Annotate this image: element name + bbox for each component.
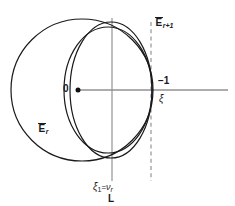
label-abscissa-nu: ν xyxy=(106,182,111,192)
figure-canvas: Er+1 −1 ξ 0 Er ξ1=νr L xyxy=(0,0,235,206)
label-ellipse-inner: Er+1 xyxy=(155,17,173,28)
label-ellipse-outer-subscript: r xyxy=(46,128,49,135)
label-abscissa-nu-subscript: r xyxy=(111,186,113,193)
label-ellipse-inner-subscript: r+1 xyxy=(163,22,174,29)
label-minus-one: −1 xyxy=(158,76,169,86)
label-origin: 0 xyxy=(63,84,69,94)
label-abscissa-xi-subscript: 1 xyxy=(97,186,101,193)
label-line-L: L xyxy=(108,194,114,204)
label-abscissa-equation: ξ1=νr xyxy=(93,182,113,192)
label-axis-variable-xi: ξ xyxy=(159,94,163,104)
origin-dot xyxy=(76,88,81,93)
label-ellipse-inner-letter: E xyxy=(155,17,163,28)
figure-drawing xyxy=(0,0,235,206)
label-ellipse-outer: Er xyxy=(38,123,48,134)
label-ellipse-outer-letter: E xyxy=(38,123,46,134)
